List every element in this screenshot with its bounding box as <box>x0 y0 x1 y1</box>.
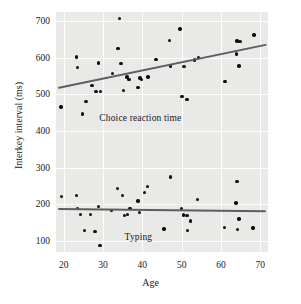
data-point <box>81 112 84 115</box>
series-annotation: Typing <box>125 232 153 242</box>
data-point <box>126 213 129 216</box>
data-point <box>146 75 149 78</box>
data-point <box>182 213 185 216</box>
data-point <box>223 226 226 229</box>
data-point <box>75 55 78 58</box>
x-tick-label: 60 <box>209 260 233 270</box>
x-tick-label: 70 <box>248 260 272 270</box>
data-point <box>90 84 93 87</box>
scatter-plot-figure: Choice reaction timeTyping 1002003004005… <box>0 0 301 304</box>
data-point <box>196 198 199 201</box>
data-point <box>143 191 146 194</box>
data-point <box>234 201 237 204</box>
x-tick-label: 50 <box>170 260 194 270</box>
series-annotation: Choice reaction time <box>99 113 181 123</box>
y-tick-label: 500 <box>20 89 50 99</box>
gridline-horizontal <box>56 168 268 169</box>
data-point <box>118 17 121 20</box>
data-point <box>97 205 100 208</box>
data-point <box>185 214 188 217</box>
data-point <box>59 105 62 108</box>
data-point <box>138 211 141 214</box>
y-tick-label: 100 <box>20 236 50 246</box>
gridline-horizontal <box>56 241 268 242</box>
data-point <box>98 244 101 247</box>
y-tick-label: 300 <box>20 163 50 173</box>
data-point <box>121 194 124 197</box>
data-point <box>127 78 130 81</box>
gridline-horizontal <box>56 131 268 132</box>
x-tick-label: 20 <box>52 260 76 270</box>
data-point <box>237 64 240 67</box>
x-tick-label: 30 <box>91 260 115 270</box>
data-point <box>251 226 254 229</box>
data-point <box>235 52 238 55</box>
data-point <box>116 47 119 50</box>
data-point <box>94 90 97 93</box>
plot-area: Choice reaction timeTyping <box>56 12 268 252</box>
data-point <box>122 89 125 92</box>
gridline-horizontal <box>56 58 268 59</box>
data-point <box>146 185 149 188</box>
data-point <box>169 175 172 178</box>
data-point <box>168 39 171 42</box>
data-point <box>75 194 78 197</box>
data-point <box>186 229 189 232</box>
data-point <box>185 98 188 101</box>
y-tick-label: 400 <box>20 126 50 136</box>
data-point <box>223 80 226 83</box>
data-point <box>84 100 87 103</box>
data-point <box>252 33 255 36</box>
x-tick-label: 40 <box>130 260 154 270</box>
data-point <box>178 27 181 30</box>
data-point <box>60 195 63 198</box>
data-point <box>235 180 238 183</box>
y-axis-title: Interkey interval (ms) <box>13 46 24 206</box>
x-axis-title: Age <box>0 277 301 288</box>
data-point <box>236 228 239 231</box>
trendline <box>58 44 266 89</box>
data-point <box>93 230 96 233</box>
data-point <box>119 62 122 65</box>
data-point <box>162 227 165 230</box>
data-point <box>79 213 82 216</box>
data-point <box>237 217 240 220</box>
data-point <box>182 65 185 68</box>
data-point <box>83 229 86 232</box>
data-point <box>154 58 157 61</box>
gridline-horizontal <box>56 94 268 95</box>
data-point <box>136 86 139 89</box>
data-point <box>136 199 139 202</box>
y-tick-label: 600 <box>20 53 50 63</box>
data-point <box>189 219 192 222</box>
data-point <box>97 61 100 64</box>
data-point <box>116 187 119 190</box>
y-tick-label: 200 <box>20 199 50 209</box>
data-point <box>76 66 79 69</box>
trendline <box>58 208 266 212</box>
data-point <box>99 90 102 93</box>
data-point <box>89 213 92 216</box>
y-tick-label: 700 <box>20 16 50 26</box>
data-point <box>180 95 183 98</box>
data-point <box>238 40 241 43</box>
gridline-horizontal <box>56 21 268 22</box>
